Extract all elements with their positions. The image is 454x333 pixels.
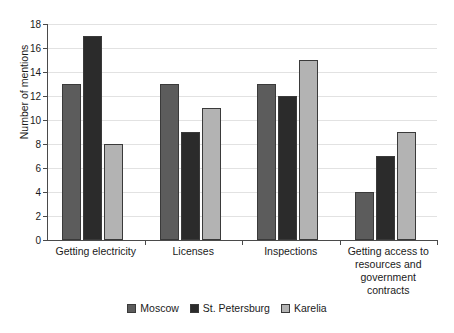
bar[interactable]	[299, 60, 318, 240]
bar[interactable]	[355, 192, 374, 240]
bar[interactable]	[397, 132, 416, 240]
bar[interactable]	[83, 36, 102, 240]
x-tick-label: Getting access to resources and governme…	[340, 245, 438, 297]
plot-area: 024681012141618	[47, 24, 437, 240]
bar[interactable]	[181, 132, 200, 240]
legend-item[interactable]: Karelia	[281, 302, 327, 314]
y-tick-label: 14	[11, 67, 41, 78]
x-tick-label: Inspections	[242, 245, 340, 258]
bar-group	[47, 24, 145, 240]
legend-swatch-icon	[190, 304, 199, 313]
legend-label: Karelia	[294, 302, 327, 314]
legend-item[interactable]: St. Petersburg	[190, 302, 270, 314]
bar-group	[145, 24, 243, 240]
legend-item[interactable]: Moscow	[127, 302, 179, 314]
y-tick-label: 12	[11, 91, 41, 102]
y-tick-label: 18	[11, 19, 41, 30]
bar[interactable]	[160, 84, 179, 240]
y-tick-label: 8	[11, 139, 41, 150]
chart-legend: MoscowSt. PetersburgKarelia	[0, 302, 454, 314]
bar[interactable]	[376, 156, 395, 240]
y-tick-label: 10	[11, 115, 41, 126]
y-tick-label: 16	[11, 43, 41, 54]
bar[interactable]	[62, 84, 81, 240]
y-tick-label: 6	[11, 163, 41, 174]
bar-chart: Number of mentions 024681012141618 Getti…	[0, 0, 454, 333]
legend-label: Moscow	[140, 302, 179, 314]
bar[interactable]	[104, 144, 123, 240]
legend-swatch-icon	[127, 304, 136, 313]
bar-group	[242, 24, 340, 240]
bar[interactable]	[278, 96, 297, 240]
y-tick-label: 2	[11, 211, 41, 222]
y-tick-label: 0	[11, 235, 41, 246]
bar[interactable]	[257, 84, 276, 240]
y-tick	[43, 240, 47, 241]
bar[interactable]	[202, 108, 221, 240]
bar-group	[340, 24, 438, 240]
x-tick-label: Licenses	[145, 245, 243, 258]
x-tick-label: Getting electricity	[47, 245, 145, 258]
legend-label: St. Petersburg	[203, 302, 270, 314]
legend-swatch-icon	[281, 304, 290, 313]
y-tick-label: 4	[11, 187, 41, 198]
group-separator-tick	[437, 240, 438, 245]
